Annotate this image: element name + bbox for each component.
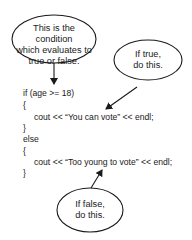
code-line-open-brace-1: {: [23, 100, 26, 110]
if-true-line-1: If true,: [118, 49, 178, 60]
code-line-close-brace-2: }: [23, 168, 26, 178]
if-false-line-2: do this.: [60, 210, 120, 221]
if-true-arrow: [106, 87, 137, 109]
code-line-if: if (age >= 18): [23, 88, 74, 98]
condition-line-2: which evaluates to: [14, 45, 94, 56]
condition-line-1: This is the condition: [14, 23, 94, 45]
if-false-arrow: [91, 170, 102, 188]
code-line-cout-vote: cout << “You can vote” << endl;: [34, 112, 154, 122]
if-true-line-2: do this.: [118, 60, 178, 71]
if-false-callout-text: If false, do this.: [60, 199, 120, 221]
condition-callout-text: This is the condition which evaluates to…: [14, 23, 94, 67]
if-false-line-1: If false,: [60, 199, 120, 210]
if-true-callout-text: If true, do this.: [118, 49, 178, 71]
condition-line-3: true or false.: [14, 56, 94, 67]
code-line-open-brace-2: {: [23, 146, 26, 156]
code-line-cout-young: cout << “Too young to vote” << endl;: [34, 157, 172, 167]
code-line-else: else: [23, 134, 39, 144]
code-line-close-brace-1: }: [23, 123, 26, 133]
